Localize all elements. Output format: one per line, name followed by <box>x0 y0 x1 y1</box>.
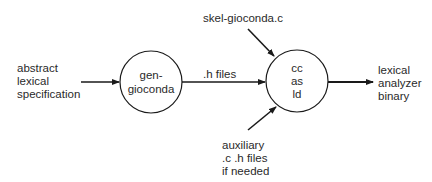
compiler-node: cc as ld <box>266 50 328 112</box>
auxiliary-line-1: auxiliary <box>222 139 264 151</box>
abstract-spec-line-2: lexical <box>17 75 49 87</box>
abstract-spec-label: abstract lexical specification <box>17 62 80 100</box>
abstract-spec-line-1: abstract <box>17 62 59 74</box>
generator-circle <box>120 51 182 113</box>
compiler-label-cc: cc <box>291 62 303 74</box>
generator-label-line-2: gioconda <box>128 83 175 95</box>
output-line-3: binary <box>378 90 410 102</box>
generator-label-line-1: gen- <box>139 69 162 81</box>
compiler-label-as: as <box>291 75 303 87</box>
h-files-edge-label: .h files <box>203 68 236 80</box>
auxiliary-line-3: if needed <box>222 165 269 177</box>
output-line-1: lexical <box>378 64 410 76</box>
compiler-label-ld: ld <box>293 88 302 100</box>
arrow-skeleton-to-compiler <box>248 29 274 56</box>
gioconda-build-flow-diagram: abstract lexical specification gen- gioc… <box>0 0 432 182</box>
abstract-spec-line-3: specification <box>17 88 80 100</box>
arrow-auxiliary-to-compiler <box>248 107 276 130</box>
auxiliary-line-2: .c .h files <box>222 152 268 164</box>
generator-node: gen- gioconda <box>120 51 182 113</box>
output-line-2: analyzer <box>378 77 422 89</box>
output-label: lexical analyzer binary <box>378 64 422 102</box>
skeleton-label: skel-gioconda.c <box>203 12 283 24</box>
auxiliary-label: auxiliary .c .h files if needed <box>222 139 269 177</box>
